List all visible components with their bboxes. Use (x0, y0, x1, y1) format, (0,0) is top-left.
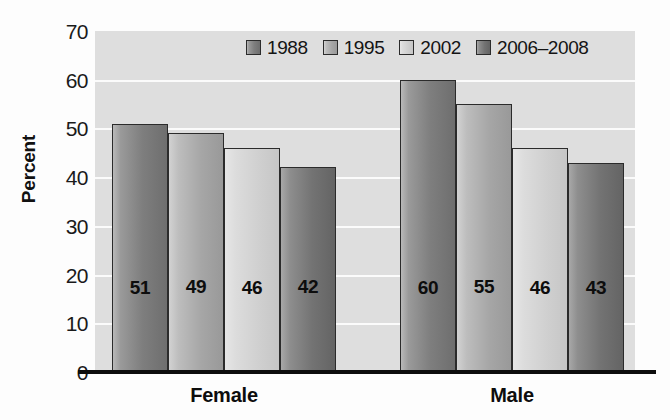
bar-value-male-2002: 46 (513, 277, 567, 299)
bar-value-male-1995: 55 (457, 276, 511, 298)
bar-value-female-2002: 46 (225, 277, 279, 299)
bar-value-female-2006-2008: 42 (281, 276, 335, 298)
legend-item-1988[interactable]: 1988 (246, 38, 308, 57)
bar-male-1988[interactable]: 60 (400, 80, 456, 372)
y-axis-tick-labels: 70 60 50 40 30 20 10 0 (48, 0, 88, 420)
bar-male-1995[interactable]: 55 (456, 104, 512, 372)
x-label-female: Female (112, 384, 336, 407)
legend-swatch-1995-icon (323, 40, 338, 55)
bars-layer: 51 49 46 42 60 55 46 43 (95, 31, 635, 372)
bar-female-1995[interactable]: 49 (168, 133, 224, 372)
y-tick-20: 20 (48, 264, 88, 285)
y-tick-60: 60 (48, 69, 88, 90)
x-axis-line (78, 370, 656, 374)
legend-swatch-2006-2008-icon (476, 40, 491, 55)
legend-label-2006-2008: 2006–2008 (497, 38, 589, 57)
bar-female-2006-2008[interactable]: 42 (280, 167, 336, 372)
x-axis-category-labels: Female Male (95, 384, 635, 412)
legend-label-1995: 1995 (344, 38, 385, 57)
legend-item-2002[interactable]: 2002 (399, 38, 461, 57)
legend-label-2002: 2002 (420, 38, 461, 57)
bar-female-1988[interactable]: 51 (112, 124, 168, 372)
y-tick-70: 70 (48, 21, 88, 42)
bar-value-female-1995: 49 (169, 276, 223, 298)
chart-legend: 1988 1995 2002 2006–2008 (246, 38, 589, 57)
legend-swatch-2002-icon (399, 40, 414, 55)
bar-value-female-1988: 51 (113, 277, 167, 299)
bar-value-male-1988: 60 (401, 277, 455, 299)
legend-item-1995[interactable]: 1995 (323, 38, 385, 57)
plot-area: 51 49 46 42 60 55 46 43 (95, 31, 635, 372)
x-label-male: Male (400, 384, 624, 407)
y-tick-30: 30 (48, 215, 88, 236)
y-axis-title: Percent (18, 114, 40, 224)
legend-swatch-1988-icon (246, 40, 261, 55)
y-tick-40: 40 (48, 167, 88, 188)
y-tick-10: 10 (48, 313, 88, 334)
bar-value-male-2006-2008: 43 (569, 277, 623, 299)
bar-female-2002[interactable]: 46 (224, 148, 280, 372)
bar-male-2006-2008[interactable]: 43 (568, 163, 624, 373)
legend-label-1988: 1988 (267, 38, 308, 57)
bar-male-2002[interactable]: 46 (512, 148, 568, 372)
y-tick-50: 50 (48, 118, 88, 139)
bar-chart-figure: Percent 70 60 50 40 30 20 10 0 51 49 4 (0, 0, 670, 420)
legend-item-2006-2008[interactable]: 2006–2008 (476, 38, 589, 57)
